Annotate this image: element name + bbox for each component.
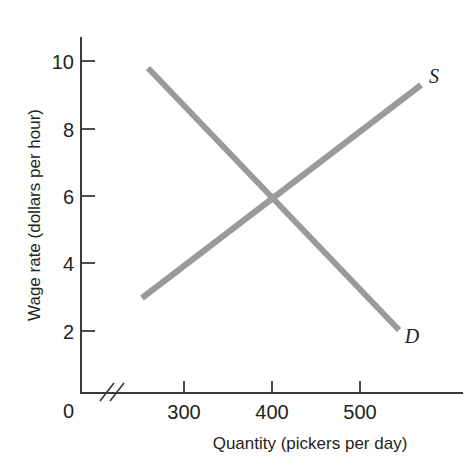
- y-tick-label-8: 8: [63, 119, 74, 141]
- y-axis-title: Wage rate (dollars per hour): [25, 109, 44, 321]
- y-tick-label-4: 4: [63, 253, 74, 275]
- origin-label: 0: [63, 400, 74, 422]
- x-tick-label-300: 300: [167, 401, 200, 423]
- x-axis-title: Quantity (pickers per day): [213, 434, 408, 453]
- x-tick-label-400: 400: [255, 401, 288, 423]
- supply-demand-chart: 10 8 6 4 2 0 300 400 500 S D Wage rate (…: [0, 0, 469, 476]
- y-tick-label-10: 10: [52, 51, 74, 73]
- supply-curve-label: S: [429, 65, 439, 87]
- y-tick-label-2: 2: [63, 321, 74, 343]
- demand-curve-label: D: [404, 325, 420, 347]
- supply-curve: [142, 85, 421, 298]
- chart-canvas: 10 8 6 4 2 0 300 400 500 S D Wage rate (…: [0, 0, 469, 476]
- y-tick-label-6: 6: [63, 186, 74, 208]
- x-tick-label-500: 500: [343, 401, 376, 423]
